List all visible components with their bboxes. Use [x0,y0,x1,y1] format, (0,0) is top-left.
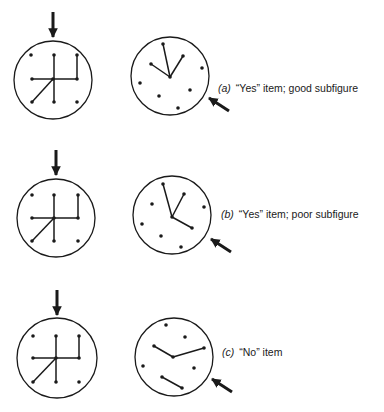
dot [202,205,206,209]
dot [140,222,144,226]
dot [75,53,79,57]
dot [76,239,80,243]
dot [77,356,81,360]
caption-a: (a)“Yes” item; good subfigure [218,82,358,94]
dot [161,42,165,46]
dot [54,334,58,338]
dot [171,355,175,359]
dot [182,192,186,196]
connecting-segment [172,194,184,217]
dot [77,334,81,338]
dot [75,100,79,104]
orientation-arrow-icon [209,98,229,111]
connecting-segment [170,56,183,77]
dot [152,344,156,348]
dot [168,75,172,79]
connecting-segment [172,217,192,228]
dot [77,380,81,384]
dot [54,380,58,384]
test-figure-a [131,37,229,115]
reference-figure-a [14,12,92,119]
dot [29,53,33,57]
dot [180,386,184,390]
dot [52,239,56,243]
dot [188,88,192,92]
dot [30,239,34,243]
connecting-segment [163,184,172,217]
dot [51,77,55,81]
dot [31,356,35,360]
dot [157,94,161,98]
dot [52,100,56,104]
dot [170,215,174,219]
dot [31,334,35,338]
caption-tag: (b) [221,208,234,220]
connecting-segment [32,218,54,241]
caption-text: “No” item [239,346,282,358]
dot [179,245,183,249]
dot [192,366,196,370]
dot [181,54,185,58]
caption-tag: (c) [222,346,234,358]
caption-text: “Yes” item; poor subfigure [239,208,359,220]
test-figure-c [135,318,232,396]
caption-b: (b)“Yes” item; poor subfigure [221,208,359,220]
reference-figure-c [17,290,97,398]
figure-canvas [0,0,384,412]
dot [52,193,56,197]
dot [141,364,145,368]
dot [176,106,180,110]
dot [76,193,80,197]
dot [200,66,204,70]
dot [52,53,56,57]
dot [31,380,35,384]
dot [183,335,187,339]
caption-tag: (a) [218,82,231,94]
connecting-segment [32,79,53,102]
dot [149,62,153,66]
dot [190,226,194,230]
dot [30,216,34,220]
dot [150,202,154,206]
dot [161,182,165,186]
orientation-arrow-icon [212,379,232,392]
test-figure-b [133,176,231,254]
dot [160,375,164,379]
dot [30,100,34,104]
orientation-arrow-icon [211,239,231,252]
dot [138,81,142,85]
reference-figure-b [17,150,95,257]
dot [54,356,58,360]
connecting-segment [162,377,182,388]
dot [75,77,79,81]
caption-text: “Yes” item; good subfigure [236,82,358,94]
caption-c: (c)“No” item [222,346,282,358]
dot [30,193,34,197]
connecting-segment [154,346,173,357]
dot [52,216,56,220]
dot [76,216,80,220]
dot [202,346,206,350]
connecting-segment [173,348,204,357]
connecting-segment [33,358,56,382]
dot [30,77,34,81]
dot [159,234,163,238]
dot [164,323,168,327]
